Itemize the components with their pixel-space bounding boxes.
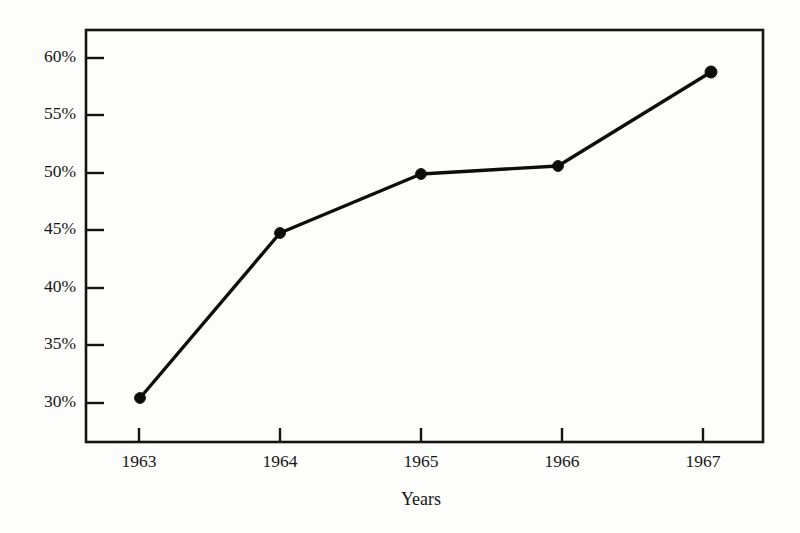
y-tick-label-35: 35% xyxy=(44,333,76,353)
y-tick-label-30: 30% xyxy=(44,391,76,411)
data-point-1964 xyxy=(275,228,286,239)
y-tick-label-60: 60% xyxy=(44,46,76,66)
x-tick-label-1965: 1965 xyxy=(404,451,439,471)
x-tick-label-1967: 1967 xyxy=(686,451,721,471)
line-chart: 60% 55% 50% 45% 40% 35% 30% 1963 1964 19… xyxy=(0,0,800,533)
x-axis-title: Years xyxy=(401,489,441,509)
x-tick-label-1964: 1964 xyxy=(263,451,298,471)
y-tick-label-45: 45% xyxy=(44,218,76,238)
chart-background xyxy=(0,0,800,533)
data-point-1965 xyxy=(416,169,427,180)
y-tick-label-40: 40% xyxy=(44,276,76,296)
y-tick-label-50: 50% xyxy=(44,161,76,181)
x-tick-label-1966: 1966 xyxy=(545,451,580,471)
x-tick-label-1963: 1963 xyxy=(122,451,157,471)
data-point-1967 xyxy=(705,66,717,78)
data-point-1966 xyxy=(553,161,564,172)
y-tick-label-55: 55% xyxy=(44,103,76,123)
data-point-1963 xyxy=(135,393,146,404)
chart-figure: 60% 55% 50% 45% 40% 35% 30% 1963 1964 19… xyxy=(0,0,800,533)
